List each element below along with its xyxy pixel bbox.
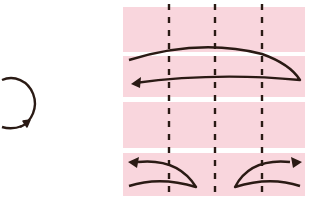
rotate-clockwise-icon: [2, 78, 35, 128]
diagram-overlay: [0, 0, 314, 210]
fold-right-to-left-arrow: [129, 47, 300, 88]
fold-diagram: [0, 0, 314, 210]
fold-left-corner-arrow: [128, 157, 196, 187]
fold-lines: [169, 4, 262, 198]
fold-right-corner-arrow: [235, 157, 302, 187]
